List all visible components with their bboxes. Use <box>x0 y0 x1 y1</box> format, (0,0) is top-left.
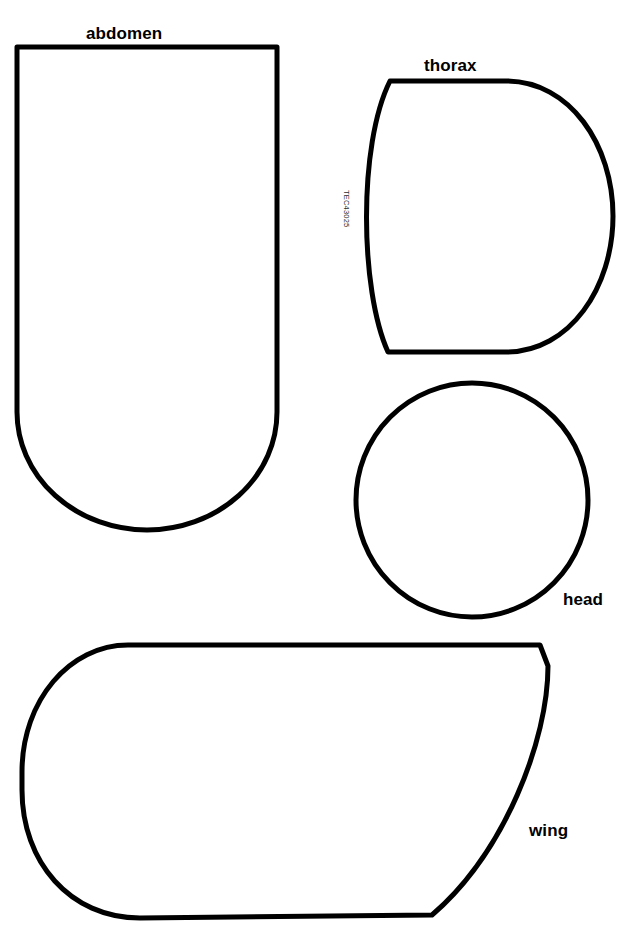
label-wing: wing <box>529 822 568 839</box>
pattern-shapes-canvas <box>0 0 619 928</box>
shape-thorax <box>367 81 614 352</box>
shape-abdomen <box>17 47 277 530</box>
template-id-code: TEC43025 <box>342 190 351 227</box>
label-thorax: thorax <box>424 57 477 74</box>
label-abdomen: abdomen <box>86 25 162 42</box>
shape-wing <box>22 645 548 918</box>
pattern-sheet: abdomen thorax head wing TEC43025 <box>0 0 619 928</box>
label-head: head <box>563 591 603 608</box>
shape-head <box>356 383 588 617</box>
